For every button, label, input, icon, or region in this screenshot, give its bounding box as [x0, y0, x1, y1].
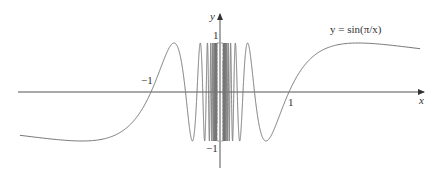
- y-axis-label: y: [209, 10, 215, 22]
- y-tick-label: 1: [213, 29, 219, 41]
- x-axis-label: x: [418, 94, 424, 106]
- y-tick-label: −1: [206, 142, 218, 154]
- x-tick-label: 1: [288, 96, 294, 108]
- x-tick-label: −1: [141, 74, 153, 86]
- function-plot: −111−1 x y y = sin(π/x): [0, 0, 441, 175]
- function-label: y = sin(π/x): [330, 23, 382, 36]
